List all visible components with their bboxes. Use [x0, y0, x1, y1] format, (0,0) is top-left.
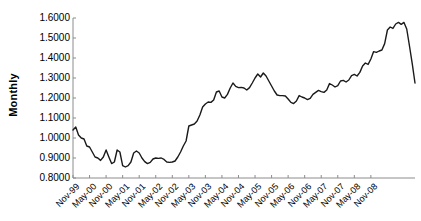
plot-area — [0, 0, 421, 221]
axes-group — [73, 18, 415, 178]
monthly-line-chart: Monthly 0.80000.90001.00001.10001.20001.… — [0, 0, 421, 221]
data-series-line — [73, 22, 415, 167]
